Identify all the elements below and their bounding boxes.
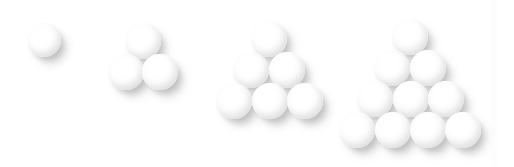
sphere xyxy=(252,83,288,119)
sphere xyxy=(374,50,410,86)
sphere xyxy=(125,23,161,59)
triangular-numbers-figure xyxy=(0,0,514,167)
caption-layer xyxy=(0,0,514,167)
paper-seam xyxy=(489,0,499,167)
sphere xyxy=(216,83,252,119)
sphere-stack-group-3 xyxy=(0,0,514,167)
sphere xyxy=(393,81,429,117)
sphere xyxy=(269,52,305,88)
sphere xyxy=(375,112,411,148)
sphere xyxy=(287,83,323,119)
sphere xyxy=(410,112,446,148)
sphere-stack-group-2 xyxy=(0,0,514,167)
sphere xyxy=(445,112,481,148)
sphere xyxy=(410,50,446,86)
sphere xyxy=(339,112,375,148)
sphere xyxy=(251,21,287,57)
sphere-stack-group-4 xyxy=(0,0,514,167)
sphere xyxy=(233,52,269,88)
sphere-stack-group-1 xyxy=(0,0,514,167)
sphere xyxy=(108,54,144,90)
sphere xyxy=(357,81,393,117)
sphere xyxy=(428,81,464,117)
sphere xyxy=(27,23,61,57)
sphere xyxy=(392,19,428,55)
sphere xyxy=(142,54,178,90)
